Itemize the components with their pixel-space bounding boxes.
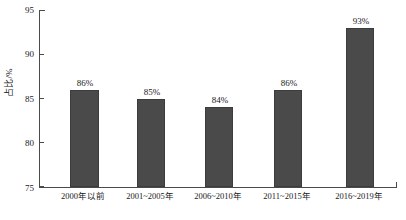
y-tick-mark-85 xyxy=(40,98,44,99)
bar-2016-2019[interactable] xyxy=(346,28,374,187)
bar-2006-2010[interactable] xyxy=(205,107,233,187)
x-tick-label-2016-2019: 2016~2019年 xyxy=(322,191,396,202)
bar-2011-2015[interactable] xyxy=(274,90,302,187)
y-tick-mark-75 xyxy=(40,186,44,187)
figure-caption xyxy=(0,210,406,220)
bar-value-2006-2010: 84% xyxy=(199,95,241,105)
bar-chart-figure: 占比/% 95 90 85 80 75 86% 85% 84% 86% 93% … xyxy=(0,0,406,220)
x-tick-label-2001-2005: 2001~2005年 xyxy=(113,191,187,202)
x-tick-label-2000-before: 2000年以前 xyxy=(46,191,120,202)
bar-value-2011-2015: 86% xyxy=(268,78,310,88)
y-tick-label-95: 95 xyxy=(12,6,34,15)
y-tick-label-90: 90 xyxy=(12,50,34,59)
y-tick-label-80: 80 xyxy=(12,139,34,148)
y-tick-mark-90 xyxy=(40,54,44,55)
bar-value-2016-2019: 93% xyxy=(340,16,382,26)
x-axis-tick-labels: 2000年以前 2001~2005年 2006~2010年 2011~2015年… xyxy=(39,191,397,205)
bar-value-2000-before: 86% xyxy=(64,78,106,88)
y-tick-label-85: 85 xyxy=(12,95,34,104)
y-tick-label-75: 75 xyxy=(12,184,34,193)
bar-value-2001-2005: 85% xyxy=(131,87,173,97)
bar-2000-before[interactable] xyxy=(70,90,99,187)
y-axis-tick-labels: 95 90 85 80 75 xyxy=(10,0,34,220)
y-tick-mark-95 xyxy=(40,10,44,11)
x-tick-label-2011-2015: 2011~2015年 xyxy=(250,191,324,202)
bar-2001-2005[interactable] xyxy=(137,99,165,187)
plot-area: 86% 85% 84% 86% 93% xyxy=(39,10,397,188)
x-tick-label-2006-2010: 2006~2010年 xyxy=(181,191,255,202)
y-tick-mark-80 xyxy=(40,142,44,143)
x-axis-right-cap xyxy=(396,182,397,187)
